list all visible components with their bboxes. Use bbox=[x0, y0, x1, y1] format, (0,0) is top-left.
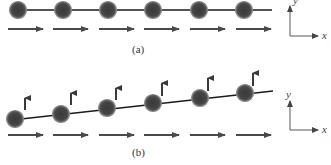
diagram-canvas bbox=[0, 0, 331, 165]
particle-line-b bbox=[12, 91, 273, 120]
x-axis-label-a: x bbox=[322, 29, 327, 41]
particle bbox=[192, 90, 209, 107]
x-axis-label-b: x bbox=[322, 123, 327, 135]
y-axis-label-b: y bbox=[286, 88, 291, 100]
caption-a: (a) bbox=[132, 43, 144, 55]
particles-b bbox=[7, 85, 254, 128]
particle bbox=[145, 2, 162, 19]
particle bbox=[100, 2, 117, 19]
particle bbox=[55, 2, 72, 19]
particle bbox=[53, 106, 70, 123]
up-arrows-b bbox=[25, 73, 253, 110]
diagram-stage: (a) y x (b) y x bbox=[0, 0, 331, 165]
caption-b: (b) bbox=[132, 146, 145, 158]
particle bbox=[99, 100, 116, 117]
y-axis-label-a: y bbox=[293, 0, 298, 6]
particle bbox=[236, 2, 253, 19]
particle bbox=[145, 95, 162, 112]
axes-b bbox=[290, 101, 318, 130]
particle bbox=[10, 2, 27, 19]
axes-a bbox=[290, 6, 318, 36]
panel-b bbox=[7, 73, 319, 135]
panel-a bbox=[8, 2, 318, 37]
particle bbox=[237, 85, 254, 102]
particle bbox=[191, 2, 208, 19]
particle bbox=[7, 111, 24, 128]
